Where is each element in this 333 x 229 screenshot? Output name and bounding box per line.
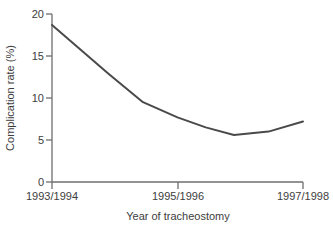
x-tick-label-1995-1996: 1995/1996 (152, 190, 204, 202)
data-line-complication-rate (52, 25, 303, 135)
y-tick-label-5: 5 (38, 134, 44, 146)
y-tick-label-10: 10 (32, 92, 44, 104)
x-axis-title: Year of tracheostomy (126, 210, 230, 222)
x-tick-label-1997-1998: 1997/1998 (277, 190, 329, 202)
y-tick-label-0: 0 (38, 176, 44, 188)
line-chart-plot: Complication rate (%) 0 5 10 15 20 1993/… (0, 0, 333, 229)
x-tick-label-1993-1994: 1993/1994 (26, 190, 78, 202)
y-axis-title: Complication rate (%) (4, 45, 16, 151)
y-tick-label-20: 20 (32, 8, 44, 20)
chart-figure: Complication rate (%) 0 5 10 15 20 1993/… (0, 0, 333, 229)
y-tick-label-15: 15 (32, 50, 44, 62)
